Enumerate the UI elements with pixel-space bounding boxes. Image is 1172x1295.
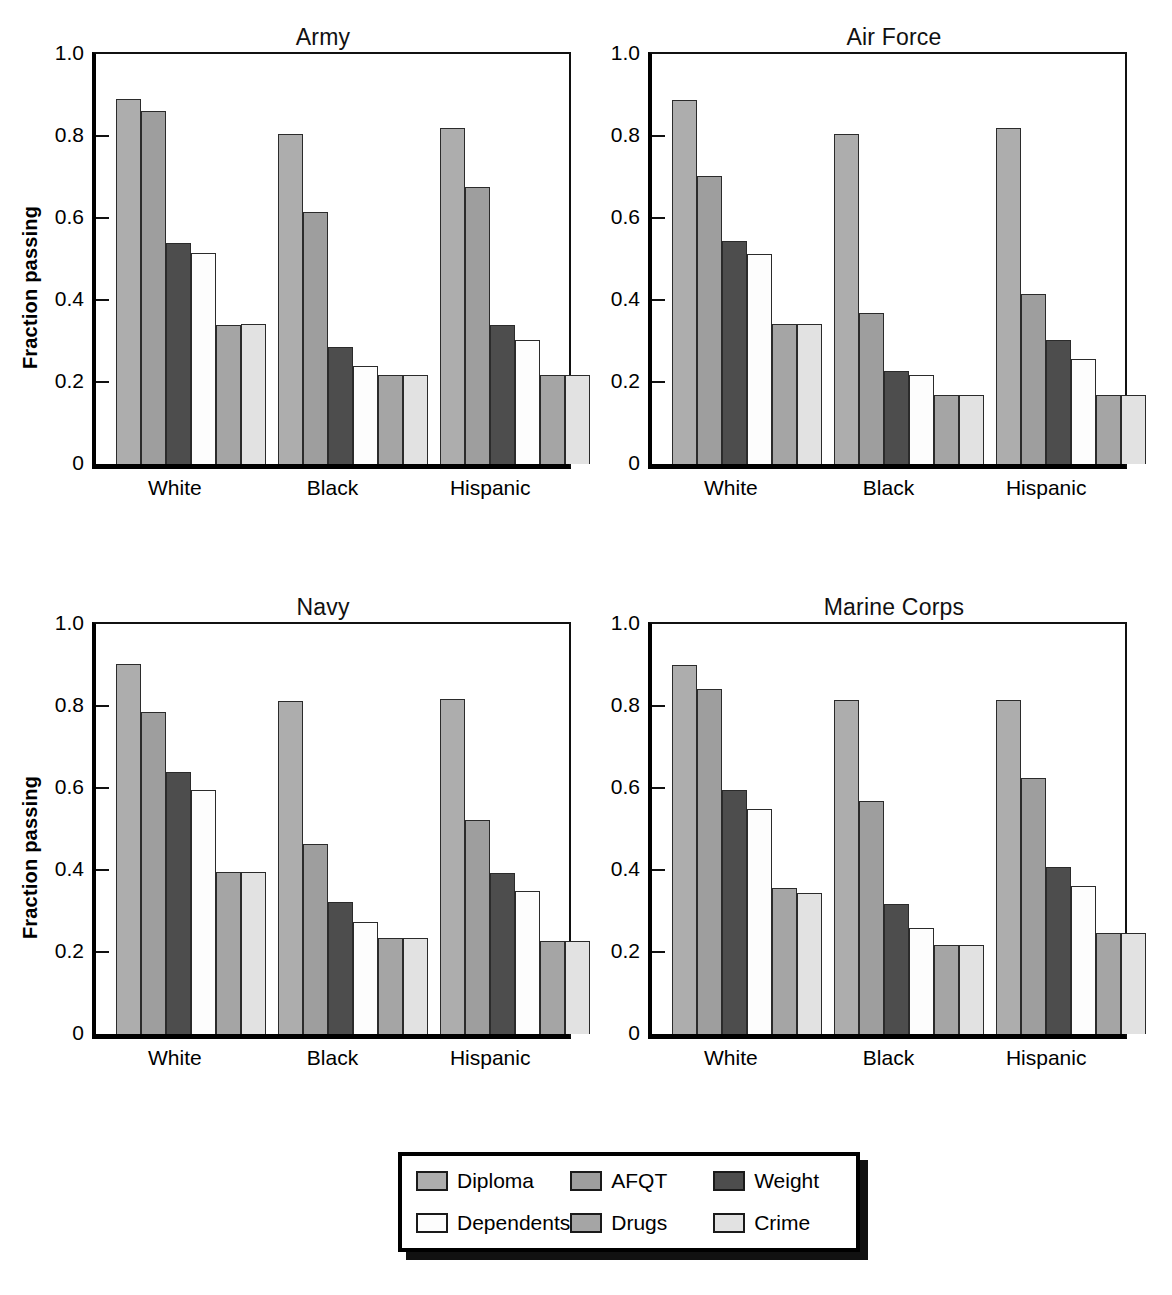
bar-afqt-hispanic bbox=[465, 820, 490, 1034]
bar-dependents-black bbox=[353, 922, 378, 1034]
plot-area: 1.00.80.60.40.20WhiteBlackHispanic bbox=[92, 622, 571, 1039]
bar-dependents-black bbox=[353, 366, 378, 464]
y-tick-label: 0.6 bbox=[611, 205, 640, 228]
bar-afqt-white bbox=[697, 176, 722, 464]
legend-item-drugs: Drugs bbox=[570, 1211, 713, 1235]
bar-drugs-black bbox=[934, 395, 959, 464]
bar-group-white bbox=[652, 624, 822, 1034]
bar-afqt-white bbox=[141, 111, 166, 464]
bar-dependents-hispanic bbox=[1071, 886, 1096, 1034]
bar-crime-black bbox=[403, 938, 428, 1034]
bar-groups bbox=[652, 54, 1125, 464]
bar-diploma-hispanic bbox=[440, 128, 465, 464]
bar-drugs-hispanic bbox=[1096, 933, 1121, 1034]
bar-crime-black bbox=[959, 395, 984, 464]
y-tick-label: 0 bbox=[72, 1021, 84, 1044]
bar-diploma-white bbox=[116, 664, 141, 1034]
bar-group-hispanic bbox=[984, 624, 1146, 1034]
x-axis-labels: WhiteBlackHispanic bbox=[96, 476, 569, 500]
panel-title: Navy bbox=[0, 594, 586, 621]
x-tick-label: Black bbox=[810, 476, 968, 500]
bar-weight-black bbox=[328, 347, 353, 464]
y-tick-label: 0 bbox=[628, 1021, 640, 1044]
bar-weight-black bbox=[884, 904, 909, 1034]
bar-afqt-hispanic bbox=[465, 187, 490, 464]
y-tick-label: 0.2 bbox=[611, 939, 640, 962]
bar-afqt-black bbox=[303, 212, 328, 464]
y-axis-label-text: Fraction passing bbox=[20, 205, 43, 368]
legend-swatch-weight bbox=[713, 1171, 745, 1191]
plot-area: 1.00.80.60.40.20WhiteBlackHispanic bbox=[648, 52, 1127, 469]
bar-crime-white bbox=[241, 872, 266, 1034]
bar-weight-white bbox=[722, 790, 747, 1034]
y-tick-label: 0.2 bbox=[55, 369, 84, 392]
bar-group-black bbox=[266, 624, 428, 1034]
legend-item-crime: Crime bbox=[713, 1211, 856, 1235]
bar-dependents-black bbox=[909, 375, 934, 464]
legend-item-dependents: Dependents bbox=[416, 1211, 570, 1235]
bar-crime-white bbox=[797, 893, 822, 1034]
bar-weight-hispanic bbox=[490, 325, 515, 464]
bar-weight-hispanic bbox=[1046, 340, 1071, 464]
bar-group-hispanic bbox=[984, 54, 1146, 464]
bar-groups bbox=[96, 54, 569, 464]
legend-label: Drugs bbox=[611, 1211, 667, 1235]
x-tick-label: Black bbox=[254, 1046, 412, 1070]
panel-title: Marine Corps bbox=[586, 594, 1172, 621]
x-tick-label: Hispanic bbox=[411, 1046, 569, 1070]
bar-dependents-hispanic bbox=[1071, 359, 1096, 464]
panel-air-force: Air Force1.00.80.60.40.20WhiteBlackHispa… bbox=[586, 0, 1172, 570]
x-tick-label: White bbox=[96, 1046, 254, 1070]
bar-crime-hispanic bbox=[1121, 395, 1146, 464]
x-axis-labels: WhiteBlackHispanic bbox=[96, 1046, 569, 1070]
x-tick-label: White bbox=[96, 476, 254, 500]
bar-weight-black bbox=[328, 902, 353, 1034]
bar-diploma-hispanic bbox=[440, 699, 465, 1034]
bar-afqt-hispanic bbox=[1021, 294, 1046, 464]
bar-crime-white bbox=[797, 324, 822, 464]
legend-label: Diploma bbox=[457, 1169, 534, 1193]
bar-weight-white bbox=[722, 241, 747, 464]
legend-box: DiplomaAFQTWeightDependentsDrugsCrime bbox=[398, 1152, 860, 1252]
x-tick-label: Black bbox=[254, 476, 412, 500]
plot-area: 1.00.80.60.40.20WhiteBlackHispanic bbox=[648, 622, 1127, 1039]
legend: DiplomaAFQTWeightDependentsDrugsCrime bbox=[398, 1152, 860, 1260]
bar-group-black bbox=[822, 54, 984, 464]
panel-navy: NavyFraction passing1.00.80.60.40.20Whit… bbox=[0, 570, 586, 1140]
x-tick-label: White bbox=[652, 1046, 810, 1070]
legend-swatch-crime bbox=[713, 1213, 745, 1233]
bar-group-white bbox=[96, 624, 266, 1034]
y-tick-label: 0.2 bbox=[55, 939, 84, 962]
y-tick-label: 0.4 bbox=[611, 857, 640, 880]
y-tick-label: 0.8 bbox=[55, 693, 84, 716]
bar-crime-white bbox=[241, 324, 266, 464]
bar-groups bbox=[652, 624, 1125, 1034]
y-tick-label: 0.6 bbox=[55, 205, 84, 228]
bar-afqt-black bbox=[859, 801, 884, 1034]
bar-drugs-white bbox=[216, 325, 241, 464]
bar-diploma-white bbox=[116, 99, 141, 464]
panel-grid: ArmyFraction passing1.00.80.60.40.20Whit… bbox=[0, 0, 1172, 1140]
bar-group-black bbox=[822, 624, 984, 1034]
y-tick-label: 0.4 bbox=[611, 287, 640, 310]
x-tick-label: White bbox=[652, 476, 810, 500]
bar-diploma-white bbox=[672, 665, 697, 1034]
bar-afqt-white bbox=[141, 712, 166, 1034]
y-tick-label: 0.2 bbox=[611, 369, 640, 392]
y-tick-label: 0.8 bbox=[611, 693, 640, 716]
bar-group-hispanic bbox=[428, 624, 590, 1034]
x-tick-label: Hispanic bbox=[967, 1046, 1125, 1070]
x-axis-labels: WhiteBlackHispanic bbox=[652, 1046, 1125, 1070]
bar-diploma-black bbox=[278, 701, 303, 1034]
y-tick-label: 0.6 bbox=[55, 775, 84, 798]
bar-drugs-hispanic bbox=[1096, 395, 1121, 464]
bar-dependents-black bbox=[909, 928, 934, 1034]
bar-drugs-hispanic bbox=[540, 375, 565, 464]
bar-dependents-hispanic bbox=[515, 891, 540, 1034]
legend-item-diploma: Diploma bbox=[416, 1169, 570, 1193]
bar-diploma-black bbox=[834, 700, 859, 1034]
legend-swatch-drugs bbox=[570, 1213, 602, 1233]
bar-weight-white bbox=[166, 243, 191, 464]
bar-group-black bbox=[266, 54, 428, 464]
bar-drugs-black bbox=[934, 945, 959, 1034]
